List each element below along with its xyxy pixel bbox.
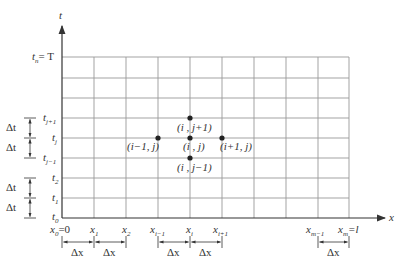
node-top <box>187 115 192 120</box>
svg-text:Δx: Δx <box>199 246 212 258</box>
svg-text:xm=l: xm=l <box>337 223 358 238</box>
t-axis-label: t <box>59 9 63 21</box>
x-axis-label: x <box>388 211 394 223</box>
t-tick-labels: tn= T tj+1 tj tj−1 t2 t1 t0 <box>32 50 59 225</box>
grid-lines <box>62 57 349 218</box>
finite-difference-grid-diagram: t x tn= T tj+1 tj tj−1 t2 t1 t0 Δt Δt Δt… <box>0 0 403 268</box>
svg-text:x1: x1 <box>89 223 98 238</box>
svg-text:Δx: Δx <box>167 246 180 258</box>
delta-x-labels: Δx Δx Δx Δx Δx <box>71 246 340 258</box>
svg-text:tn= T: tn= T <box>32 50 54 65</box>
svg-text:t2: t2 <box>52 171 59 186</box>
stencil-labels: (i , j+1) (i−1, j) (i , j) (i+1, j) (i ,… <box>127 121 252 174</box>
svg-text:Δt: Δt <box>6 181 16 193</box>
svg-text:Δx: Δx <box>103 246 116 258</box>
svg-text:x2: x2 <box>121 223 131 238</box>
svg-text:tj+1: tj+1 <box>43 111 56 126</box>
svg-text:(i−1, j): (i−1, j) <box>127 140 159 153</box>
svg-text:xm−1: xm−1 <box>305 223 324 238</box>
svg-text:(i , j+1): (i , j+1) <box>177 121 212 134</box>
delta-t-markers <box>24 118 36 218</box>
svg-text:x0=0: x0=0 <box>49 223 71 238</box>
svg-text:xi−1: xi−1 <box>149 223 165 238</box>
svg-text:(i , j−1): (i , j−1) <box>177 161 212 174</box>
svg-text:Δx: Δx <box>327 246 340 258</box>
svg-text:xi+1: xi+1 <box>212 223 228 238</box>
svg-text:tj: tj <box>52 131 57 146</box>
svg-text:Δt: Δt <box>6 141 16 153</box>
svg-text:t1: t1 <box>52 191 59 206</box>
svg-text:Δt: Δt <box>6 201 16 213</box>
svg-text:tj−1: tj−1 <box>43 151 56 166</box>
svg-text:Δt: Δt <box>6 121 16 133</box>
svg-text:Δx: Δx <box>71 246 84 258</box>
svg-text:(i+1, j): (i+1, j) <box>220 140 252 153</box>
svg-text:xi: xi <box>185 223 193 238</box>
x-tick-labels: x0=0 x1 x2 xi−1 xi xi+1 xm−1 xm=l <box>49 223 358 238</box>
node-bottom <box>187 155 192 160</box>
delta-t-labels: Δt Δt Δt Δt <box>6 121 16 213</box>
svg-text:(i , j): (i , j) <box>183 140 205 153</box>
